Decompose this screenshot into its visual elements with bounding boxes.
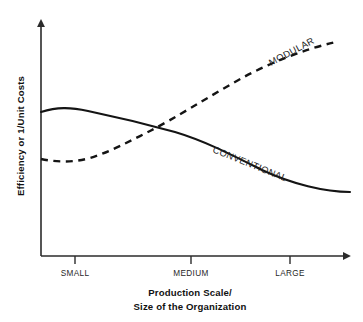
series-curve-conventional xyxy=(41,108,350,192)
y-axis-title: Efficiency or 1/Unit Costs xyxy=(15,76,26,196)
x-tick-label-medium: MEDIUM xyxy=(173,269,208,278)
x-axis-title-line1: Production Scale/ xyxy=(148,287,232,298)
series-curve-modular xyxy=(41,42,336,162)
x-axis-title-line2: Size of the Organization xyxy=(134,301,247,312)
chart-container: SMALL MEDIUM LARGE MODULAR CONVENTIONAL … xyxy=(0,0,363,322)
series-label-conventional: CONVENTIONAL xyxy=(211,144,289,184)
x-tick-label-large: LARGE xyxy=(275,269,305,278)
series-label-modular: MODULAR xyxy=(267,35,316,68)
x-tick-label-small: SMALL xyxy=(61,269,90,278)
chart-plot-area: SMALL MEDIUM LARGE MODULAR CONVENTIONAL … xyxy=(0,0,363,322)
